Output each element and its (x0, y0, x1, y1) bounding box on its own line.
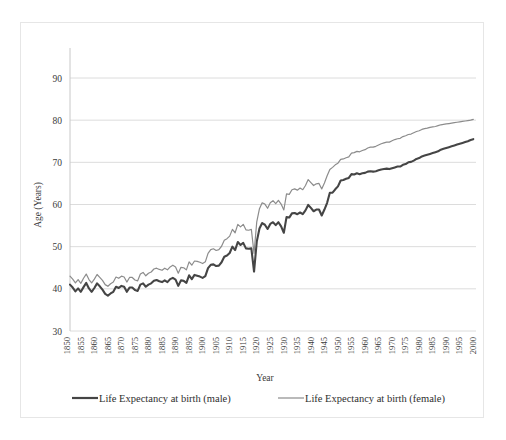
x-tick-label-1945: 1945 (319, 337, 329, 354)
x-tick-label-1885: 1885 (157, 337, 167, 354)
chart-container: 30405060708090 1850185518601865187018751… (0, 0, 506, 440)
legend-label-female[interactable]: Life Expectancy at birth (female) (305, 393, 445, 405)
x-tick-label-1965: 1965 (373, 337, 383, 354)
life-expectancy-line-chart: 30405060708090 1850185518601865187018751… (0, 0, 506, 440)
x-tick-label-1970: 1970 (387, 337, 397, 354)
legend-label-male[interactable]: Life Expectancy at birth (male) (99, 393, 231, 405)
x-tick-label-1935: 1935 (292, 337, 302, 354)
x-tick-label-1915: 1915 (238, 337, 248, 354)
x-tick-label-1975: 1975 (400, 337, 410, 354)
y-tick-label-80: 80 (53, 116, 63, 126)
x-tick-label-1980: 1980 (414, 337, 424, 354)
x-tick-label-1900: 1900 (197, 337, 207, 354)
y-tick-label-50: 50 (53, 242, 63, 252)
x-tick-label-1940: 1940 (306, 337, 316, 354)
x-tick-label-1960: 1960 (360, 337, 370, 354)
x-tick-label-1880: 1880 (143, 337, 153, 354)
x-tick-label-1870: 1870 (116, 337, 126, 354)
x-axis-tick-labels: 1850185518601865187018751880188518901895… (62, 337, 478, 354)
series-line-female (70, 119, 473, 286)
x-tick-label-1890: 1890 (170, 337, 180, 354)
y-tick-label-60: 60 (53, 200, 63, 210)
x-tick-label-1905: 1905 (211, 337, 221, 354)
x-tick-label-1910: 1910 (224, 337, 234, 354)
x-tick-label-1925: 1925 (265, 337, 275, 354)
y-axis-title: Age (Years) (33, 182, 44, 228)
x-tick-label-1930: 1930 (279, 337, 289, 354)
x-tick-label-2000: 2000 (468, 337, 478, 354)
y-tick-label-30: 30 (53, 327, 63, 337)
x-axis-title: Year (256, 373, 274, 383)
y-tick-label-90: 90 (53, 74, 63, 84)
x-tick-label-1995: 1995 (454, 337, 464, 354)
x-tick-label-1865: 1865 (103, 337, 113, 354)
x-tick-label-1860: 1860 (89, 337, 99, 354)
y-tick-label-40: 40 (53, 284, 63, 294)
x-tick-label-1950: 1950 (333, 337, 343, 354)
series-lines-group (70, 119, 473, 295)
y-axis-tick-labels: 30405060708090 (53, 74, 63, 337)
x-tick-label-1875: 1875 (130, 337, 140, 354)
x-tick-label-1920: 1920 (251, 337, 261, 354)
x-tick-label-1855: 1855 (76, 337, 86, 354)
x-tick-label-1895: 1895 (184, 337, 194, 354)
x-tick-label-1955: 1955 (346, 337, 356, 354)
x-tick-label-1985: 1985 (427, 337, 437, 354)
chart-legend: Life Expectancy at birth (male)Life Expe… (72, 393, 445, 405)
y-tick-label-70: 70 (53, 158, 63, 168)
x-tick-label-1990: 1990 (441, 337, 451, 354)
x-tick-label-1850: 1850 (62, 337, 72, 354)
